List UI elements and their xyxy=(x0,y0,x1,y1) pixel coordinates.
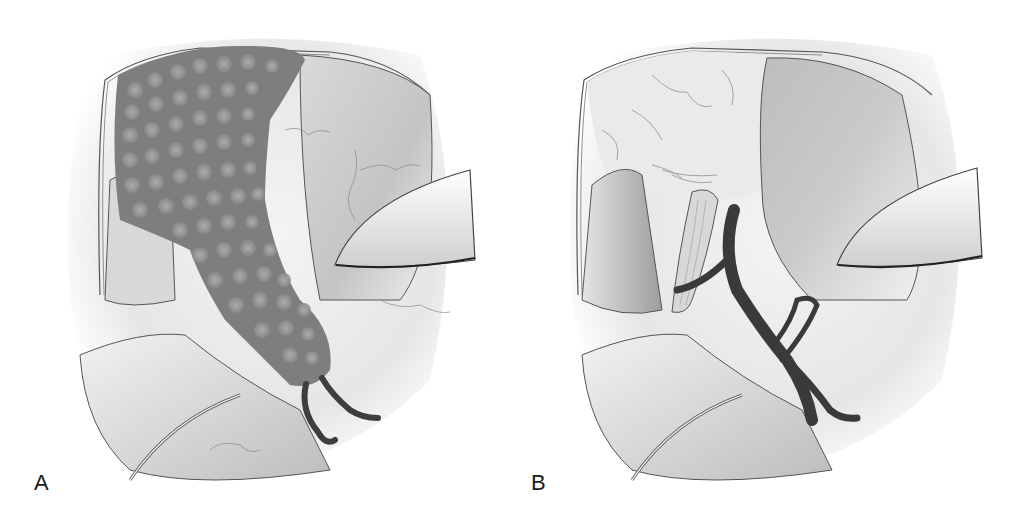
illustration-panel-b xyxy=(512,0,1024,509)
panel-a: A xyxy=(0,0,512,509)
panel-label-b: B xyxy=(531,472,546,494)
panel-b: B xyxy=(512,0,1024,509)
panel-label-a: A xyxy=(34,472,49,494)
illustration-panel-a xyxy=(0,0,512,509)
